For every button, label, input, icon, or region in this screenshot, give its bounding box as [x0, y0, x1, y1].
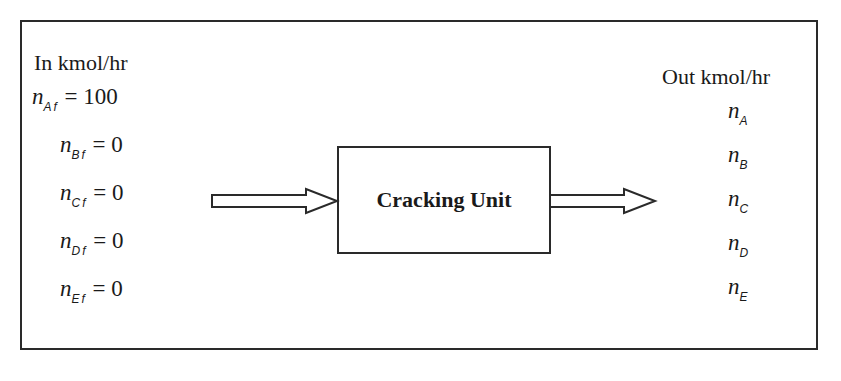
input-stream-a: nAf = 100: [32, 84, 118, 114]
output-stream-d: nD: [728, 230, 750, 260]
cracking-unit-box: Cracking Unit: [337, 146, 551, 254]
output-arrow-icon: [550, 188, 656, 214]
cracking-unit-label: Cracking Unit: [376, 187, 511, 213]
input-stream-d: nDf = 0: [60, 228, 123, 258]
input-stream-c: nCf = 0: [60, 180, 123, 210]
outputs-heading: Out kmol/hr: [662, 64, 770, 90]
input-stream-b: nBf = 0: [60, 132, 123, 162]
output-stream-e: nE: [728, 274, 750, 304]
output-stream-b: nB: [728, 142, 750, 172]
output-stream-a: nA: [728, 98, 750, 128]
inputs-heading: In kmol/hr: [34, 50, 128, 76]
input-arrow-icon: [212, 188, 338, 214]
input-stream-e: nEf = 0: [60, 276, 123, 306]
output-stream-c: nC: [728, 186, 750, 216]
